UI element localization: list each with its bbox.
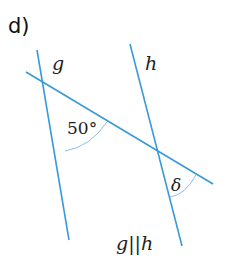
diagram: d) g h 50° δ g||h (0, 0, 228, 261)
geometry-lines (0, 0, 228, 261)
line-h-label: h (145, 52, 157, 74)
line-g-label: g (52, 52, 64, 74)
line-g (37, 50, 69, 240)
angle-50-label: 50° (67, 118, 97, 138)
parallel-condition: g||h (116, 232, 153, 254)
part-label: d) (8, 14, 30, 38)
transversal (26, 72, 213, 184)
line-h (130, 44, 182, 246)
angle-delta-label: δ (171, 175, 181, 195)
